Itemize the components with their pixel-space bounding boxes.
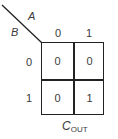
cell-b0-a0: 0: [42, 43, 73, 79]
row-header-0: 0: [26, 57, 32, 68]
column-header-0: 0: [55, 28, 61, 39]
output-subscript: OUT: [71, 125, 88, 134]
cell-b1-a1: 1: [74, 80, 105, 116]
column-variable-label: A: [28, 11, 35, 22]
row-variable-label: B: [11, 27, 18, 38]
cell-b0-a1: 0: [74, 43, 105, 79]
cell-b1-a0: 0: [42, 80, 73, 116]
output-label: COUT: [62, 119, 88, 134]
karnaugh-map-grid: 0 0 0 1: [41, 42, 104, 115]
column-header-1: 1: [86, 28, 92, 39]
row-header-1: 1: [26, 93, 32, 104]
